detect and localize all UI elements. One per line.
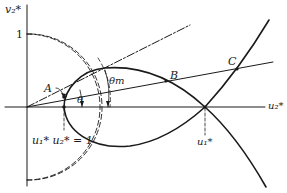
point-C-label: C	[228, 56, 236, 67]
u1-star-crossing-dot	[203, 105, 206, 108]
loop-axis-dot	[62, 105, 66, 109]
theta-label: θ	[77, 95, 83, 105]
y-tick-label: 1	[16, 29, 23, 40]
theta-m-arrowhead	[106, 101, 110, 107]
point-B-dot	[164, 79, 167, 82]
product-equation-label: u₁* u₂* = 1	[32, 135, 93, 146]
u1-star-label: u₁*	[197, 137, 212, 147]
point-B-label: B	[170, 70, 178, 81]
diagram-canvas	[0, 0, 287, 193]
y-axis-label: v₂*	[5, 4, 21, 15]
theta-m-label: θm	[109, 76, 125, 86]
diagram-figure: v₂* 1 u₂* A B C θ θm u₁* u₂* = 1 u₁*	[0, 0, 287, 193]
main-curve-lower-branch	[205, 107, 266, 187]
x-axis-label: u₂*	[268, 101, 283, 111]
main-curve-upper-branch	[205, 20, 269, 107]
point-A-label: A	[44, 83, 52, 94]
